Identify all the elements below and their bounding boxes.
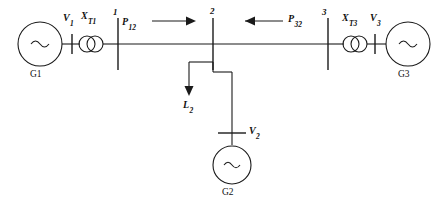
transformer-xt1-label: XT1 — [81, 11, 96, 24]
generator-g3-ac-waveform — [399, 41, 417, 47]
voltage-v2-label: V2 — [249, 126, 259, 139]
bus3-number-label: 3 — [322, 8, 327, 17]
load-l2-label: L2 — [183, 100, 193, 113]
p32-arrow-head — [245, 17, 255, 26]
generator-g2-label: G2 — [222, 188, 234, 198]
power-flow-p32-label: P32 — [288, 14, 302, 27]
bus2-number-label: 2 — [210, 7, 215, 16]
power-flow-p12-label: P12 — [122, 17, 136, 30]
bus1-number-label: 1 — [113, 8, 118, 17]
generator-g1-ac-waveform — [31, 41, 49, 47]
diagram-canvas — [0, 0, 438, 204]
voltage-v3-label: V3 — [370, 13, 380, 26]
l2-load-arrow-head — [185, 86, 194, 96]
generator-g3-label: G3 — [398, 70, 410, 80]
generator-g1-label: G1 — [30, 70, 42, 80]
p12-arrow-head — [186, 17, 196, 26]
voltage-v1-label: V1 — [63, 13, 73, 26]
transformer-xt3-label: XT3 — [342, 13, 357, 26]
generator-g2-ac-waveform — [224, 162, 240, 168]
single-line-diagram: G1 V1 XT1 1 P12 2 P32 3 XT3 V3 G3 L2 V2 … — [0, 0, 438, 204]
